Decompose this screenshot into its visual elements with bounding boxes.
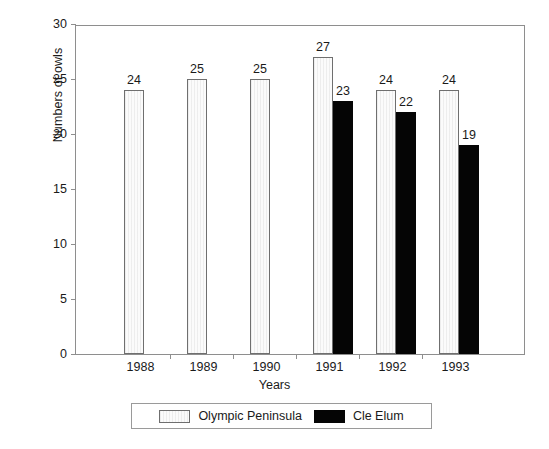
y-tick-label: 5 <box>60 292 67 306</box>
x-tick-label: 1991 <box>298 360 361 374</box>
y-tick-label: 10 <box>53 237 67 251</box>
legend-label-olympic-peninsula: Olympic Peninsula <box>198 409 302 423</box>
bar-value-label: 24 <box>379 73 393 87</box>
y-tick-mark <box>71 24 76 25</box>
bar-1993-olympic-peninsula: 24 <box>439 90 459 354</box>
x-tick-mark <box>233 354 234 359</box>
y-tick-mark <box>71 244 76 245</box>
bar-value-label: 24 <box>127 73 141 87</box>
legend-swatch-cle-elum <box>314 410 345 423</box>
bar-value-label: 22 <box>399 95 413 109</box>
bar-value-label: 24 <box>442 73 456 87</box>
bar-1990-olympic-peninsula: 25 <box>250 79 270 354</box>
y-tick-mark <box>71 79 76 80</box>
x-tick-mark <box>296 354 297 359</box>
legend-entry-cle-elum: Cle Elum <box>314 409 404 423</box>
bar-1993-cle-elum: 19 <box>459 145 479 354</box>
bar-value-label: 25 <box>253 62 267 76</box>
x-tick-mark <box>170 354 171 359</box>
plot-area: 051015202530 242525272324222419 <box>75 25 525 355</box>
chart-legend: Olympic Peninsula Cle Elum <box>131 403 432 429</box>
y-tick-label: 15 <box>53 182 67 196</box>
y-tick-mark <box>71 354 76 355</box>
x-tick-label: 1988 <box>109 360 172 374</box>
bar-1992-olympic-peninsula: 24 <box>376 90 396 354</box>
x-tick-label: 1989 <box>172 360 235 374</box>
bar-value-label: 19 <box>462 128 476 142</box>
y-tick-mark <box>71 189 76 190</box>
x-tick-label: 1993 <box>424 360 487 374</box>
x-tick-label: 1992 <box>361 360 424 374</box>
bar-value-label: 25 <box>190 62 204 76</box>
bar-value-label: 27 <box>316 40 330 54</box>
bar-1988-olympic-peninsula: 24 <box>124 90 144 354</box>
bar-1989-olympic-peninsula: 25 <box>187 79 207 354</box>
y-tick-mark <box>71 134 76 135</box>
legend-label-cle-elum: Cle Elum <box>353 409 404 423</box>
bar-1992-cle-elum: 22 <box>396 112 416 354</box>
x-tick-mark <box>422 354 423 359</box>
legend-swatch-olympic-peninsula <box>159 410 190 423</box>
x-tick-label: 1990 <box>235 360 298 374</box>
y-tick-label: 20 <box>53 127 67 141</box>
bar-1991-cle-elum: 23 <box>333 101 353 354</box>
y-tick-label: 25 <box>53 72 67 86</box>
legend-entry-olympic-peninsula: Olympic Peninsula <box>159 409 302 423</box>
bar-1991-olympic-peninsula: 27 <box>313 57 333 354</box>
y-tick-label: 0 <box>60 347 67 361</box>
x-tick-mark <box>359 354 360 359</box>
y-tick-mark <box>71 299 76 300</box>
x-axis-title: Years <box>0 378 549 392</box>
bar-value-label: 23 <box>336 84 350 98</box>
owl-population-bar-chart: Numbers of owls 051015202530 24252527232… <box>0 0 549 449</box>
y-tick-label: 30 <box>53 17 67 31</box>
